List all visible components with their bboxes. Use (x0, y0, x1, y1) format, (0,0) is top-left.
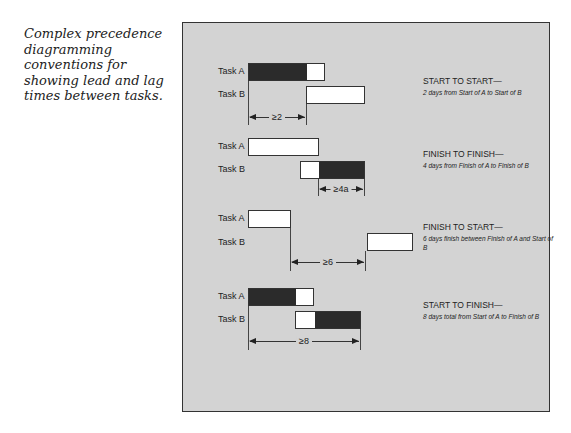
task-b-label: Task B (218, 314, 245, 324)
dimension-extension (364, 179, 365, 196)
task-b-bar (306, 86, 365, 104)
task-a-label: Task A (218, 141, 245, 151)
arrow-left-icon (319, 186, 326, 192)
dimension-extension (306, 104, 307, 125)
arrow-right-icon (352, 338, 359, 344)
dimension-extension (365, 251, 366, 271)
task-a-label: Task A (218, 66, 245, 76)
lag-value: ≥4a (331, 184, 352, 194)
lag-value: ≥8 (296, 336, 312, 346)
figure-caption: Complex precedence diagramming conventio… (24, 26, 174, 104)
relationship-description: 8 days total from Start of A to Finish o… (423, 312, 558, 321)
lag-value: ≥6 (320, 257, 336, 267)
task-a-bar (248, 63, 325, 81)
relationship-title: START TO FINISH— (423, 300, 503, 310)
relationship-description: 2 days from Start of A to Start of B (423, 88, 558, 97)
arrow-right-icon (356, 186, 363, 192)
task-b-label: Task B (218, 164, 245, 174)
relationship-description: 6 days finish between Finish of A and St… (423, 234, 558, 252)
task-a-label: Task A (218, 213, 245, 223)
relationship-description: 4 days from Finish of A to Finish of B (423, 161, 558, 170)
arrow-right-icon (298, 114, 305, 120)
task-a-bar (248, 138, 319, 156)
task-b-bar (300, 161, 365, 179)
arrow-left-icon (249, 338, 256, 344)
task-b-bar (367, 233, 413, 251)
arrow-right-icon (357, 259, 364, 265)
lag-value: ≥2 (269, 112, 285, 122)
task-b-label: Task B (218, 89, 245, 99)
task-a-bar (248, 288, 314, 306)
task-b-bar (295, 311, 361, 329)
task-a-label: Task A (218, 291, 245, 301)
relationship-title: FINISH TO START— (423, 222, 503, 232)
relationship-title: FINISH TO FINISH— (423, 149, 503, 159)
relationship-title: START TO START— (423, 76, 502, 86)
task-a-bar (248, 210, 291, 228)
arrow-left-icon (249, 114, 256, 120)
task-b-label: Task B (218, 237, 245, 247)
dimension-extension (360, 329, 361, 350)
arrow-left-icon (291, 259, 298, 265)
